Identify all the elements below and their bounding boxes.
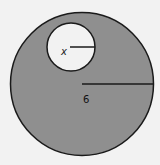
diagram: x 6 (0, 0, 160, 165)
outer-radius-label: 6 (83, 94, 89, 105)
inner-radius-label: x (60, 46, 67, 57)
